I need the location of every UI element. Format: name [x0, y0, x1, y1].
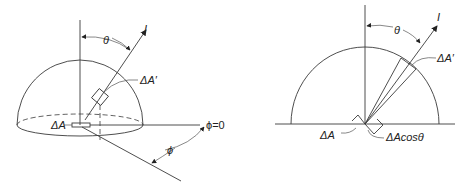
- label-phi-zero: ϕ=0: [206, 119, 225, 131]
- label-surface-right: ΔA: [319, 129, 335, 141]
- label-phi: ϕ: [167, 144, 173, 156]
- label-area-prime-left: ΔA′: [139, 74, 158, 86]
- label-theta-left: θ: [103, 34, 109, 46]
- intensity-ray-left: [85, 30, 146, 120]
- label-surface-left: ΔA: [50, 119, 66, 131]
- label-theta-right: θ: [394, 24, 400, 36]
- label-intensity-left: I: [144, 23, 147, 35]
- surface-element-right: [352, 115, 365, 124]
- surface-element: [72, 123, 90, 127]
- label-area-prime-right: ΔA′: [436, 52, 455, 64]
- left-panel: I θ ΔA′ ΔA ϕ=0 ϕ: [17, 20, 225, 181]
- area-element-prime: [92, 89, 109, 106]
- label-intensity-right: I: [437, 11, 440, 23]
- theta-arc-right: [367, 25, 393, 27]
- right-panel: I θ ΔA′ ΔA ΔAcosθ: [275, 5, 455, 143]
- intensity-ray-right: [365, 26, 437, 124]
- label-projected-surface: ΔAcosθ: [385, 131, 424, 143]
- radiation-diagram: I θ ΔA′ ΔA ϕ=0 ϕ I θ ΔA′ ΔA: [0, 0, 470, 189]
